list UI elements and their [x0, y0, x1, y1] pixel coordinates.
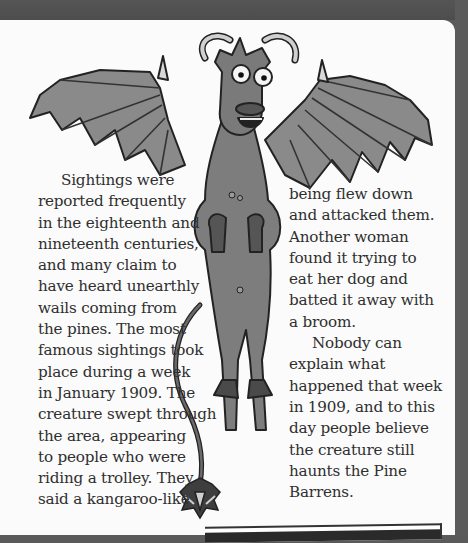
right-border-strip: [455, 0, 468, 535]
text-line: the creature still: [289, 440, 434, 461]
text-line: the area, appearing: [38, 426, 188, 447]
text-line: batted it away with: [289, 290, 434, 311]
creature-body-icon: [194, 120, 280, 430]
text-line: eat her dog and: [289, 269, 434, 290]
left-wing-icon: [30, 56, 185, 175]
paragraph-attack: being flew down and attacked them. Anoth…: [289, 184, 434, 333]
text-line: Barrens.: [289, 482, 434, 503]
text-line: Sightings were: [38, 170, 188, 191]
text-line: and many claim to: [38, 255, 188, 276]
text-line: to people who were: [38, 447, 188, 468]
text-line: found it trying to: [289, 248, 434, 269]
right-wing-icon: [265, 60, 432, 188]
text-line: being flew down: [289, 184, 434, 205]
text-line: Another woman: [289, 227, 434, 248]
text-line: famous sightings took: [38, 340, 188, 361]
paragraph-nobody: Nobody can explain what happened that we…: [289, 333, 434, 503]
bottom-image-frame: [205, 523, 442, 542]
text-line: day people believe: [289, 418, 434, 439]
text-line: and attacked them.: [289, 205, 434, 226]
text-line: said a kangaroo-like: [38, 489, 188, 510]
text-line: creature swept through: [38, 404, 188, 425]
paragraph-sightings: Sightings were reported frequently in th…: [38, 170, 188, 511]
left-text-column: Sightings were reported frequently in th…: [38, 170, 188, 511]
text-line: Nobody can: [289, 333, 434, 354]
text-line: the pines. The most: [38, 319, 188, 340]
text-line: in 1909, and to this: [289, 397, 434, 418]
text-line: happened that week: [289, 376, 434, 397]
right-text-column: being flew down and attacked them. Anoth…: [289, 184, 434, 503]
text-line: riding a trolley. They: [38, 468, 188, 489]
text-line: in the eighteenth and: [38, 213, 188, 234]
text-line: haunts the Pine: [289, 461, 434, 482]
text-line: place during a week: [38, 362, 188, 383]
text-line: explain what: [289, 354, 434, 375]
text-line: a broom.: [289, 312, 434, 333]
text-line: in January 1909. The: [38, 383, 188, 404]
text-line: reported frequently: [38, 191, 188, 212]
text-line: have heard unearthly: [38, 276, 188, 297]
creature-head-icon: [202, 36, 295, 135]
text-line: wails coming from: [38, 298, 188, 319]
text-line: nineteenth centuries,: [38, 234, 188, 255]
